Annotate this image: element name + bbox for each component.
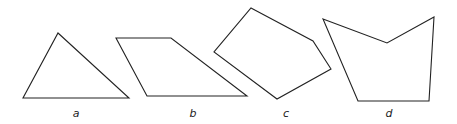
shape-b-parallelogram xyxy=(116,38,247,96)
label-b: b xyxy=(190,107,197,120)
shape-d-concave-pentagon xyxy=(323,17,434,101)
label-d: d xyxy=(386,107,394,120)
polygons-figure: a b c d xyxy=(0,0,457,124)
shape-a-triangle xyxy=(23,33,129,98)
label-c: c xyxy=(283,107,289,120)
shape-c-pentagon xyxy=(214,8,331,99)
label-a: a xyxy=(73,107,80,120)
